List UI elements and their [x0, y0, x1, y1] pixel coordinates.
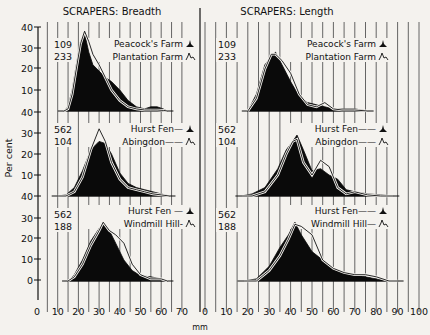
x-tick-label: 0 — [202, 306, 208, 317]
title-breadth: SCRAPERS: Breadth — [63, 6, 162, 17]
count-label: 562 — [54, 124, 72, 135]
x-tick-label: 90 — [392, 306, 404, 317]
legend-outline-label: Windmill Hill— — [311, 219, 376, 229]
count-label: 109 — [218, 39, 236, 50]
count-label: 233 — [54, 51, 72, 62]
y-tick-label: 10 — [21, 254, 33, 265]
count-label: 104 — [218, 136, 236, 147]
count-label: 188 — [218, 221, 236, 232]
y-tick-label: 0 — [27, 275, 33, 286]
x-tick-label: 30 — [93, 306, 105, 317]
y-tick-label: 40 — [21, 22, 33, 33]
x-axis-label: mm — [192, 323, 208, 332]
y-tick-label: 20 — [21, 149, 33, 160]
x-tick-label: 100 — [410, 306, 428, 317]
count-label: 104 — [54, 136, 72, 147]
filled-distribution — [68, 224, 167, 281]
x-tick-label: 50 — [134, 306, 146, 317]
y-tick-label: 20 — [21, 233, 33, 244]
legend-outline-label: Plantation Farm — [113, 52, 183, 62]
legend-outline-label: Abingdon—— — [315, 137, 376, 147]
legend-outline-label: Plantation Farm — [306, 52, 376, 62]
x-tick-label: 30 — [263, 306, 275, 317]
legend-filled-label: Peacock's Farm — [307, 39, 376, 49]
count-label: 233 — [218, 51, 236, 62]
count-label: 562 — [54, 209, 72, 220]
legend-filled-label: Hurst Fen—— — [315, 124, 376, 134]
x-tick-label: 50 — [306, 306, 318, 317]
count-label: 109 — [54, 39, 72, 50]
count-label: 562 — [218, 124, 236, 135]
y-tick-label: 40 — [21, 107, 33, 118]
x-tick-label: 20 — [72, 306, 84, 317]
x-tick-label: 70 — [176, 306, 188, 317]
y-tick-label: 10 — [21, 85, 33, 96]
count-label: 562 — [218, 209, 236, 220]
x-tick-label: 10 — [220, 306, 232, 317]
legend-filled-label: Hurst Fen— — [131, 124, 183, 134]
x-tick-label: 80 — [370, 306, 382, 317]
chart-figure: 4030201040302010403020100 SCRAPERS: Brea… — [0, 0, 430, 335]
y-tick-label: 10 — [21, 170, 33, 181]
legend-filled-label: Peacock's Farm — [114, 39, 183, 49]
y-tick-label: 20 — [21, 63, 33, 74]
x-tick-label: 20 — [242, 306, 254, 317]
legend-outline-label: Windmill Hill- — [124, 219, 183, 229]
legend-filled-label: Hurst Fen—— — [315, 206, 376, 216]
x-tick-label: 60 — [155, 306, 167, 317]
x-tick-label: 0 — [34, 306, 40, 317]
count-label: 188 — [54, 221, 72, 232]
legend-outline-label: Abingdon—— — [122, 137, 183, 147]
y-tick-label: 30 — [21, 213, 33, 224]
title-length: SCRAPERS: Length — [240, 6, 333, 17]
x-axis-ticks: 0102030405060700102030405060708090100 — [34, 306, 428, 317]
distribution-curves — [52, 31, 404, 281]
x-tick-label: 60 — [327, 306, 339, 317]
y-axis: 4030201040302010403020100 — [21, 22, 41, 301]
y-tick-label: 30 — [21, 43, 33, 54]
y-tick-label: 40 — [21, 191, 33, 202]
x-tick-label: 40 — [114, 306, 126, 317]
x-tick-label: 10 — [52, 306, 64, 317]
legend-filled-label: Hurst Fen — — [128, 206, 183, 216]
x-tick-label: 40 — [285, 306, 297, 317]
scrapers-histogram-chart: 4030201040302010403020100 SCRAPERS: Brea… — [0, 0, 430, 335]
x-tick-label: 70 — [349, 306, 361, 317]
y-tick-label: 30 — [21, 128, 33, 139]
y-axis-label: Per cent — [3, 138, 14, 177]
